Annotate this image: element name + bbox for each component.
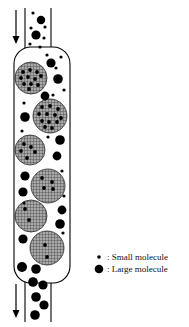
small-molecule: [22, 201, 25, 204]
small-molecule-in-pore: [22, 142, 26, 146]
small-molecule: [20, 129, 23, 132]
large-molecule: [41, 92, 50, 101]
legend-item-large: : Large molecule: [107, 264, 168, 274]
small-molecule-in-pore: [45, 255, 49, 259]
small-molecule-in-pore: [40, 176, 44, 180]
small-molecule-in-pore: [37, 112, 41, 116]
porous-bead: [30, 231, 64, 265]
small-molecule-in-pore: [43, 125, 47, 129]
small-molecule: [59, 55, 62, 58]
small-molecule-in-pore: [25, 156, 29, 160]
large-molecule: [30, 310, 40, 320]
small-molecule: [62, 194, 65, 197]
small-molecule: [29, 26, 32, 29]
small-molecule-in-pore: [29, 145, 33, 149]
small-molecule-in-pore: [42, 186, 46, 190]
small-molecule-in-pore: [56, 107, 60, 111]
small-molecule: [31, 11, 34, 14]
large-molecule: [55, 135, 65, 145]
porous-bead: [31, 169, 65, 203]
small-molecule-in-pore: [50, 180, 54, 184]
small-molecule: [43, 25, 46, 28]
small-molecule: [42, 36, 45, 39]
small-molecule: [46, 135, 49, 138]
small-molecule-dot-icon: [97, 255, 101, 259]
bead-matrix: [15, 200, 47, 232]
large-molecule: [38, 280, 47, 289]
size-exclusion-chromatography-diagram: : Small molecule: Large molecule: [0, 0, 189, 327]
small-molecule-in-pore: [51, 187, 55, 191]
diagram-canvas: : Small molecule: Large molecule: [0, 0, 189, 327]
small-molecule-in-pore: [35, 70, 39, 74]
small-molecule-in-pore: [47, 120, 51, 124]
small-molecule-in-pore: [43, 243, 47, 247]
small-molecule-in-pore: [19, 149, 23, 153]
small-molecule-in-pore: [48, 104, 52, 108]
small-molecule: [60, 169, 63, 172]
small-molecule-in-pore: [33, 150, 37, 154]
small-molecule-in-pore: [40, 119, 44, 123]
small-molecule: [62, 88, 65, 91]
large-molecule: [20, 171, 29, 180]
small-molecule-in-pore: [19, 76, 23, 80]
large-molecule: [31, 264, 41, 274]
large-molecule: [37, 16, 45, 24]
large-molecule: [53, 152, 62, 161]
large-molecule: [18, 187, 27, 196]
small-molecule-in-pore: [28, 68, 32, 72]
bead-matrix: [30, 231, 64, 265]
porous-bead: [15, 135, 45, 165]
large-molecule-dot-icon: [95, 265, 104, 274]
small-molecule-in-pore: [45, 112, 49, 116]
large-molecule: [46, 58, 55, 67]
small-molecule-in-pore: [53, 113, 57, 117]
porous-bead: [15, 200, 47, 232]
small-molecule: [38, 45, 41, 48]
small-molecule-in-pore: [55, 120, 59, 124]
large-molecule: [39, 300, 48, 309]
small-molecule-in-pore: [29, 82, 33, 86]
small-molecule-in-pore: [59, 116, 63, 120]
small-molecule-in-pore: [36, 83, 40, 87]
small-molecule: [22, 101, 25, 104]
small-molecule-in-pore: [22, 82, 26, 86]
bead-matrix: [33, 99, 67, 133]
large-molecule: [18, 234, 27, 243]
large-molecule: [28, 277, 38, 287]
small-molecule-in-pore: [26, 75, 30, 79]
large-molecule: [31, 30, 40, 39]
small-molecule-in-pore: [27, 87, 31, 91]
small-molecule-in-pore: [39, 74, 43, 78]
small-molecule-in-pore: [21, 70, 25, 74]
large-molecule: [20, 112, 30, 122]
small-molecule: [51, 93, 54, 96]
small-molecule-in-pore: [33, 77, 37, 81]
outlet-flow-arrow-head: [13, 310, 20, 318]
small-molecule-in-pore: [23, 207, 27, 211]
porous-bead: [33, 99, 67, 133]
small-molecule: [45, 53, 48, 56]
large-molecule: [55, 219, 65, 229]
inlet-flow-arrow-head: [13, 36, 20, 44]
bead-matrix: [31, 169, 65, 203]
small-molecule: [54, 66, 57, 69]
small-molecule: [61, 231, 64, 234]
porous-bead: [15, 62, 47, 94]
small-molecule-in-pore: [40, 105, 44, 109]
legend-item-small: : Small molecule: [107, 252, 168, 262]
small-molecule-in-pore: [27, 218, 31, 222]
large-molecule: [58, 206, 67, 215]
legend: : Small molecule: Large molecule: [95, 252, 168, 274]
large-molecule: [17, 262, 27, 272]
small-molecule-in-pore: [50, 126, 54, 130]
large-molecule: [53, 74, 63, 84]
large-molecule: [31, 292, 41, 302]
small-molecule: [28, 42, 31, 45]
